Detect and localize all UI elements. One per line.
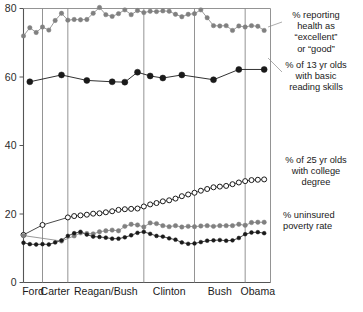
data-point bbox=[249, 220, 253, 224]
data-point bbox=[217, 184, 222, 189]
data-point bbox=[167, 224, 171, 228]
data-point bbox=[148, 221, 152, 225]
data-point bbox=[237, 222, 241, 226]
data-point bbox=[218, 238, 222, 242]
data-point bbox=[116, 11, 120, 15]
annot-health: health as bbox=[297, 21, 335, 31]
data-point bbox=[21, 34, 25, 38]
data-point bbox=[230, 182, 235, 187]
annot-reading: % of 13 yr olds bbox=[285, 60, 347, 70]
data-point bbox=[109, 79, 115, 85]
data-point bbox=[135, 206, 140, 211]
data-point bbox=[110, 14, 114, 18]
data-point bbox=[40, 222, 45, 227]
data-point bbox=[104, 12, 108, 16]
y-axis-ticks: 020406080 bbox=[5, 2, 24, 288]
data-point bbox=[199, 224, 203, 228]
data-point bbox=[97, 5, 101, 9]
data-point bbox=[78, 18, 82, 22]
x-axis-label-obama: Obama bbox=[241, 285, 276, 297]
data-point bbox=[256, 220, 260, 224]
data-point bbox=[230, 28, 234, 32]
data-point bbox=[224, 23, 228, 27]
data-point bbox=[34, 243, 38, 247]
data-point bbox=[116, 229, 120, 233]
annot-college: with college bbox=[291, 166, 341, 176]
data-point bbox=[243, 179, 248, 184]
data-point bbox=[129, 233, 133, 237]
data-point bbox=[59, 72, 65, 78]
data-point bbox=[110, 237, 114, 241]
data-point bbox=[255, 177, 260, 182]
data-point bbox=[148, 232, 152, 236]
data-point bbox=[142, 10, 146, 14]
data-point bbox=[85, 17, 89, 21]
data-point bbox=[123, 235, 127, 239]
data-point bbox=[59, 11, 63, 15]
data-point bbox=[261, 66, 267, 72]
chart-canvas: 020406080 FordCarterReagan/BushClintonBu… bbox=[0, 0, 363, 312]
annot-reading: reading skills bbox=[289, 82, 343, 92]
annot-reading: with basic bbox=[295, 71, 337, 81]
data-point bbox=[122, 207, 127, 212]
data-point bbox=[72, 214, 77, 219]
data-point bbox=[180, 241, 184, 245]
y-tick-label: 0 bbox=[11, 276, 17, 288]
annot-college: degree bbox=[302, 177, 331, 187]
data-point bbox=[65, 215, 70, 220]
data-point bbox=[116, 207, 121, 212]
data-point bbox=[160, 199, 165, 204]
data-point bbox=[262, 220, 266, 224]
data-point bbox=[205, 239, 209, 243]
x-axis-label-clinton: Clinton bbox=[153, 285, 186, 297]
data-point bbox=[135, 8, 139, 12]
data-point bbox=[192, 190, 197, 195]
data-point bbox=[262, 28, 266, 32]
data-point bbox=[256, 24, 260, 28]
annot-poverty: poverty rate bbox=[283, 221, 332, 231]
y-tick-label: 20 bbox=[5, 208, 17, 220]
data-point bbox=[91, 211, 96, 216]
data-point bbox=[160, 75, 166, 81]
data-point bbox=[34, 30, 38, 34]
data-point bbox=[205, 223, 209, 227]
y-tick-label: 40 bbox=[5, 139, 17, 151]
annot-college: % of 25 yr olds bbox=[285, 155, 347, 165]
data-point bbox=[147, 73, 153, 79]
data-point bbox=[154, 221, 158, 225]
x-axis-labels: FordCarterReagan/BushClintonBushObama bbox=[22, 285, 275, 297]
data-point bbox=[224, 183, 229, 188]
data-point bbox=[148, 9, 152, 13]
data-point bbox=[236, 180, 241, 185]
chart-figure: 020406080 FordCarterReagan/BushClintonBu… bbox=[0, 0, 363, 312]
data-point bbox=[262, 177, 267, 182]
data-point bbox=[161, 223, 165, 227]
data-point bbox=[129, 206, 134, 211]
data-point bbox=[27, 79, 33, 85]
data-point bbox=[28, 242, 32, 246]
data-point bbox=[22, 241, 26, 245]
data-point bbox=[47, 28, 51, 32]
data-point bbox=[122, 79, 128, 85]
data-point bbox=[161, 9, 165, 13]
data-point bbox=[154, 9, 158, 13]
data-point bbox=[211, 77, 217, 83]
data-point bbox=[186, 12, 190, 16]
annot-health: “excellent” bbox=[295, 32, 338, 42]
data-point bbox=[237, 236, 241, 240]
data-point bbox=[72, 17, 76, 21]
data-point bbox=[250, 231, 254, 235]
data-point bbox=[28, 25, 32, 29]
annot-health: or “good” bbox=[297, 44, 335, 54]
data-point bbox=[135, 223, 139, 227]
data-point bbox=[103, 210, 108, 215]
data-point bbox=[243, 25, 247, 29]
data-point bbox=[167, 198, 172, 203]
data-point bbox=[199, 8, 203, 12]
data-point bbox=[179, 72, 185, 78]
data-point bbox=[173, 12, 177, 16]
data-point bbox=[91, 11, 95, 15]
data-point bbox=[142, 230, 146, 234]
data-point bbox=[167, 9, 171, 13]
data-point bbox=[243, 223, 247, 227]
